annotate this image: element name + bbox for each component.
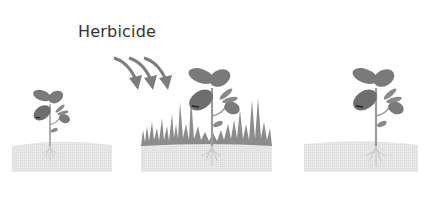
soil bbox=[141, 141, 272, 172]
panel-after bbox=[304, 65, 418, 172]
panel-spray bbox=[114, 58, 272, 172]
soil bbox=[12, 142, 112, 172]
panel-before bbox=[12, 88, 112, 172]
soil bbox=[304, 141, 418, 172]
herbicide-diagram bbox=[0, 0, 427, 197]
